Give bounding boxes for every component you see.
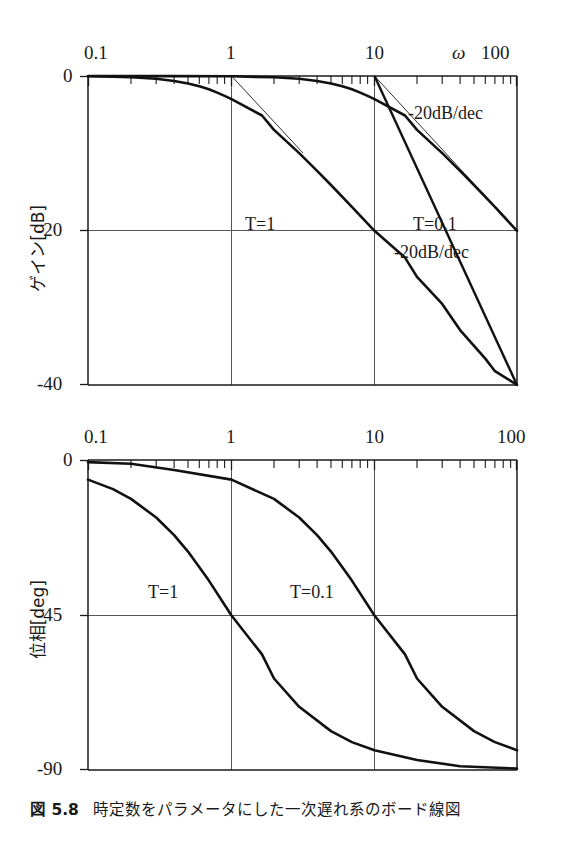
phase-xtick-label-100: 100 — [497, 427, 526, 446]
gain-ytick-label-0: 0 — [63, 66, 73, 85]
phase-xtick-label-0-1: 0.1 — [84, 427, 108, 446]
gain-yticks — [80, 77, 88, 385]
gain-xtick-label-0-1: 0.1 — [84, 43, 108, 62]
phase-annot-t01: T=0.1 — [290, 583, 334, 601]
phase-annot-t1: T=1 — [148, 583, 178, 601]
phase-xtick-label-1: 1 — [226, 427, 236, 446]
gain-xtick-label-1: 1 — [226, 43, 236, 62]
gain-xtick-label-100: 100 — [481, 43, 510, 62]
gain-curve-t01 — [88, 76, 517, 231]
phase-ytick-label-minus90: -90 — [37, 759, 62, 778]
phase-yticks — [80, 461, 88, 770]
phase-axis-title: 位相[deg] — [30, 580, 47, 659]
figure-number: 図 5.8 — [30, 801, 79, 819]
phase-xticks-major — [89, 460, 517, 470]
phase-ytick-label-0: 0 — [63, 450, 73, 469]
gain-axis-title: ゲイン[dB] — [30, 205, 47, 292]
figure-caption-text: 時定数をパラメータにした一次遅れ系のボード線図 — [93, 801, 461, 819]
phase-curve-t1 — [88, 480, 517, 769]
gain-annot-t1: T=1 — [245, 215, 275, 233]
omega-axis-label: ω — [452, 43, 465, 62]
gain-annot-t01: T=0.1 — [413, 215, 457, 233]
figure-caption: 図 5.8時定数をパラメータにした一次遅れ系のボード線図 — [30, 797, 461, 819]
phase-plot-group — [80, 460, 517, 770]
phase-xtick-label-10: 10 — [365, 427, 384, 446]
bode-diagram-figure: 0.1 1 10 ω 100 0 -20 -40 ゲイン[dB] T=1 T=0… — [0, 0, 576, 842]
phase-xticks-minor — [131, 460, 511, 468]
gain-xtick-label-10: 10 — [365, 43, 384, 62]
plot-canvas — [0, 0, 576, 842]
gain-annot-slope-lower: -20dB/dec — [394, 243, 469, 261]
phase-curve-t01 — [88, 462, 517, 750]
gain-annot-slope-upper: -20dB/dec — [408, 104, 483, 122]
gain-asymptote-t1 — [232, 76, 304, 153]
gain-ytick-label-minus40: -40 — [37, 374, 62, 393]
